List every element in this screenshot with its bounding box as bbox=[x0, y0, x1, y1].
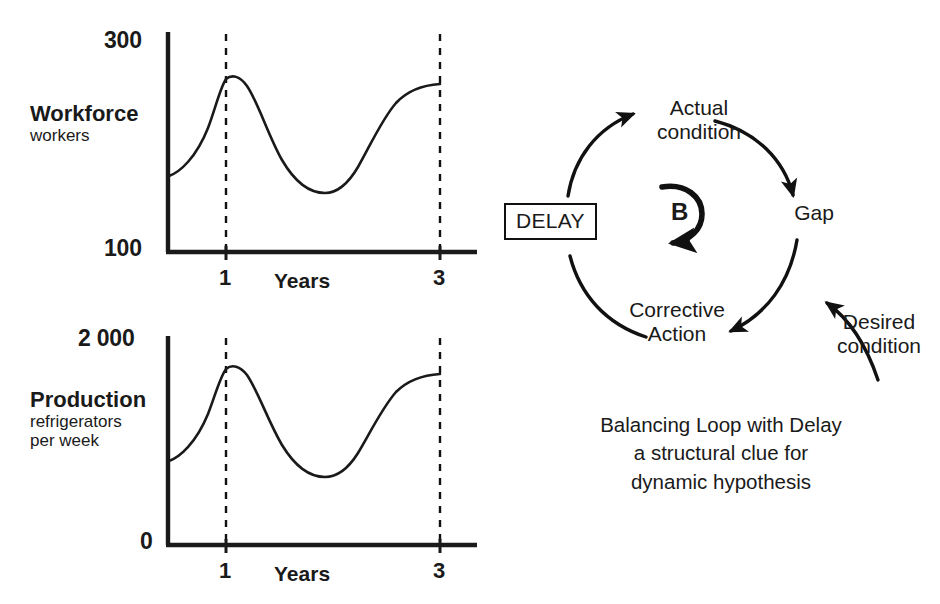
series-label-production: Production bbox=[30, 388, 146, 413]
link-delay-to-actual bbox=[568, 114, 633, 196]
series-label-workforce: Workforce bbox=[30, 102, 138, 127]
loop-polarity-label-b: B bbox=[671, 198, 688, 226]
x-axis-title-workforce: Years bbox=[274, 269, 330, 293]
delay-box: DELAY bbox=[504, 203, 597, 240]
figure-canvas: 300 100 Workforce workers 1 3 Years 2 00… bbox=[0, 0, 940, 604]
curve-production bbox=[169, 366, 440, 477]
node-desired-condition: Desired condition bbox=[818, 310, 940, 358]
x-axis-title-production: Years bbox=[274, 562, 330, 586]
node-gap: Gap bbox=[786, 201, 842, 225]
chart-workforce bbox=[166, 32, 477, 260]
diagram-vector-layer bbox=[0, 0, 940, 604]
loop-caption: Balancing Loop with Delay a structural c… bbox=[556, 411, 886, 496]
chart-production bbox=[166, 336, 477, 553]
y-axis-min-label-production: 0 bbox=[140, 529, 153, 555]
x-tick-label-3-workforce: 3 bbox=[433, 266, 445, 291]
series-unit-production: refrigerators per week bbox=[30, 412, 122, 450]
x-tick-label-1-production: 1 bbox=[219, 559, 231, 584]
y-axis-min-label-workforce: 100 bbox=[104, 236, 142, 262]
x-tick-label-3-production: 3 bbox=[433, 559, 445, 584]
y-axis-max-label-workforce: 300 bbox=[104, 28, 142, 54]
series-unit-workforce: workers bbox=[30, 126, 90, 145]
node-actual-condition: Actual condition bbox=[638, 96, 760, 144]
node-corrective-action: Corrective Action bbox=[607, 298, 747, 346]
x-tick-label-1-workforce: 1 bbox=[219, 266, 231, 291]
y-axis-max-label-production: 2 000 bbox=[78, 326, 135, 352]
curve-workforce bbox=[169, 76, 440, 193]
